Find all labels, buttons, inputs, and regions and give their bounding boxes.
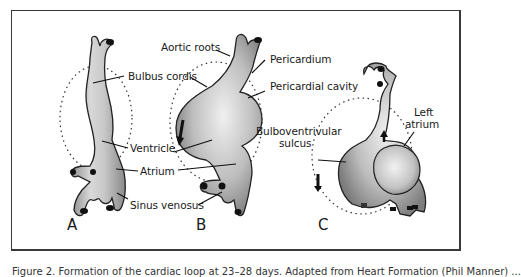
label-atrium: Atrium: [140, 165, 175, 177]
label-sinus-venosus: Sinus venosus: [130, 199, 204, 211]
label-left-atrium-line1: Left: [414, 106, 433, 118]
label-bulboventricular-line2: sulcus: [279, 137, 311, 149]
label-bulboventricular-line1: Bulboventrivular: [256, 125, 341, 137]
panel-letter-a: A: [67, 216, 77, 234]
label-pericardium: Pericardium: [270, 53, 331, 65]
panel-b-heart-tube: [170, 35, 265, 216]
figure-caption: Figure 2. Formation of the cardiac loop …: [12, 266, 521, 277]
panel-letter-c: C: [318, 216, 328, 234]
label-aortic-roots: Aortic roots: [161, 41, 220, 53]
panel-letter-b: B: [196, 216, 206, 234]
label-pericardial-cavity: Pericardial cavity: [270, 80, 358, 92]
panel-a-heart-tube: [60, 36, 138, 215]
label-ventricle: Ventricle: [130, 142, 175, 154]
label-left-atrium-line2: atrium: [405, 118, 439, 130]
label-bulbus-cordis: Bulbus cordis: [128, 70, 197, 82]
